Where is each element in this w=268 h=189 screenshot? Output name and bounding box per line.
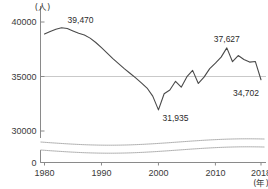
data-label-37627: 37,627	[214, 34, 240, 44]
line-chart: 0300003500040000(人)19801990200020102018(…	[0, 0, 268, 189]
x-tick-label-1980: 1980	[34, 168, 54, 178]
x-tick-label-2010: 2010	[205, 168, 225, 178]
axis-break-wave-lower	[41, 147, 265, 153]
x-tick-label-2000: 2000	[148, 168, 168, 178]
chart-canvas: 0300003500040000(人)19801990200020102018(…	[0, 0, 268, 189]
y-tick-label-30000: 30000	[11, 126, 36, 136]
axis-break-wave-upper	[41, 139, 265, 145]
y-axis-unit-label: (人)	[35, 2, 51, 12]
y-tick-label-0: 0	[31, 158, 36, 168]
x-tick-label-2018: 2018	[251, 168, 268, 178]
data-label-34702: 34,702	[233, 88, 259, 98]
y-tick-label-40000: 40000	[11, 17, 36, 27]
x-axis-unit-label: (年)	[253, 178, 268, 188]
x-tick-label-1990: 1990	[91, 168, 111, 178]
data-label-31935: 31,935	[162, 113, 188, 123]
data-label-39470: 39,470	[68, 15, 94, 25]
y-tick-label-35000: 35000	[11, 72, 36, 82]
